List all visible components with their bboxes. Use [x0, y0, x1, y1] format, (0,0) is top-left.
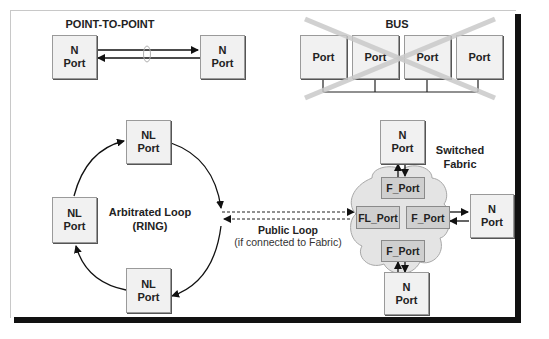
- fabric-n-port-top-line2: Port: [392, 142, 414, 155]
- nl-port-top: NL Port: [126, 120, 171, 164]
- nl-port-left: NL Port: [52, 197, 97, 243]
- public-loop-label: Public Loop (if connected to Fabric): [228, 224, 348, 248]
- arbitrated-loop-label: Arbitrated Loop (RING): [100, 205, 200, 233]
- f-port-right: F_Port: [406, 206, 450, 229]
- public-loop-label-line1: Public Loop: [228, 224, 348, 236]
- nl-port-left-line2: Port: [64, 220, 86, 233]
- fabric-n-port-right-line1: N: [488, 203, 496, 216]
- fabric-n-port-right-line2: Port: [481, 216, 503, 229]
- nl-port-bottom-line1: NL: [141, 278, 156, 291]
- fabric-n-port-right: N Port: [470, 194, 514, 238]
- fabric-n-port-top-line1: N: [399, 129, 407, 142]
- f-port-top: F_Port: [381, 177, 425, 199]
- arbitrated-loop-label-line1: Arbitrated Loop: [100, 205, 200, 219]
- nl-port-left-line1: NL: [67, 207, 82, 220]
- switched-fabric-label-line2: Fabric: [430, 157, 490, 171]
- arbitrated-loop-label-line2: (RING): [100, 219, 200, 233]
- f-port-bottom: F_Port: [381, 240, 425, 262]
- fabric-n-port-top: N Port: [380, 120, 425, 164]
- fabric-n-port-bottom-line1: N: [403, 281, 411, 294]
- nl-port-bottom: NL Port: [126, 268, 171, 313]
- switched-fabric-label: Switched Fabric: [430, 143, 490, 171]
- nl-port-top-line1: NL: [141, 129, 156, 142]
- public-loop-label-line2: (if connected to Fabric): [228, 236, 348, 248]
- fl-port: FL_Port: [356, 206, 400, 229]
- nl-port-bottom-line2: Port: [138, 291, 160, 304]
- fabric-n-port-bottom-line2: Port: [396, 294, 418, 307]
- switched-fabric-label-line1: Switched: [430, 143, 490, 157]
- nl-port-top-line2: Port: [138, 142, 160, 155]
- fabric-n-port-bottom: N Port: [384, 272, 429, 315]
